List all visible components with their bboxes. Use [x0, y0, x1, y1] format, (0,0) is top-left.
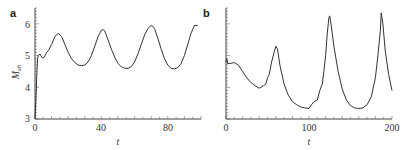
xtick-0: 0	[33, 122, 38, 133]
panel-a-line	[35, 25, 198, 119]
xtick-80: 80	[163, 122, 173, 133]
panel-b-axes	[226, 8, 392, 119]
xtick-0: 0	[224, 122, 229, 133]
panel-b-line	[226, 13, 392, 109]
ylabel-sub: sh	[15, 64, 23, 71]
xtick-40: 40	[96, 122, 106, 133]
panel-a-y-tick-labels: 3 4 5 6	[25, 19, 30, 124]
panel-a: a 3 4 5 6 0 40 80 t Msh	[10, 7, 201, 147]
ytick-3: 3	[25, 113, 30, 124]
panel-b-label: b	[203, 7, 210, 19]
svg-text:Msh: Msh	[10, 64, 23, 80]
panel-a-x-tick-labels: 0 40 80	[33, 122, 174, 133]
ytick-4: 4	[25, 82, 30, 93]
xtick-100: 100	[302, 122, 317, 133]
figure: a 3 4 5 6 0 40 80 t Msh b 0 100 200 t	[0, 0, 405, 150]
xtick-200: 200	[385, 122, 400, 133]
ytick-6: 6	[25, 19, 30, 30]
ytick-5: 5	[25, 50, 30, 61]
panel-a-y-axis-label: Msh	[10, 64, 23, 80]
panel-b-x-tick-labels: 0 100 200	[224, 122, 400, 133]
panel-a-label: a	[10, 7, 17, 19]
panel-a-x-axis-label: t	[117, 136, 120, 147]
panel-b: b 0 100 200 t	[203, 7, 400, 147]
panel-b-x-axis-label: t	[308, 136, 311, 147]
